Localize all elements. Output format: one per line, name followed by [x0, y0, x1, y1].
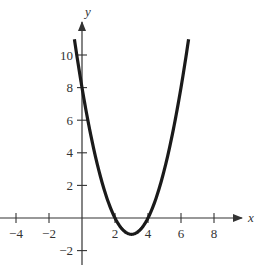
y-tick-label: 6 — [67, 113, 74, 128]
y-axis-label: y — [83, 4, 91, 19]
y-tick-label: −2 — [59, 243, 73, 258]
x-tick-label: 2 — [112, 226, 119, 241]
labels: xy−4−22468−2246810 — [9, 4, 254, 258]
x-tick-label: −4 — [9, 226, 23, 241]
parabola-chart: xy−4−22468−2246810 — [0, 0, 256, 267]
y-tick-label: 4 — [67, 145, 74, 160]
x-tick-label: 6 — [178, 226, 185, 241]
x-tick-label: 4 — [145, 226, 152, 241]
x-tick-label: 8 — [211, 226, 218, 241]
series-line-parabola — [74, 39, 188, 234]
y-tick-label: 2 — [67, 178, 74, 193]
x-axis-label: x — [247, 210, 254, 225]
x-tick-label: −2 — [42, 226, 56, 241]
y-tick-label: 8 — [67, 80, 74, 95]
series — [74, 39, 188, 234]
y-tick-label: 10 — [60, 48, 73, 63]
